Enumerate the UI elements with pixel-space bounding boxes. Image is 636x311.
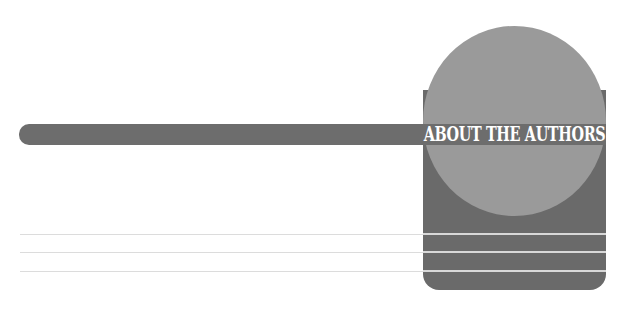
writing-rule-1 — [20, 234, 423, 235]
box-stripe-3 — [423, 270, 606, 272]
section-title: ABOUT THE AUTHORS — [449, 120, 581, 148]
writing-rule-2 — [20, 252, 423, 253]
box-stripe-1 — [423, 233, 606, 235]
box-stripe-2 — [423, 251, 606, 253]
writing-rule-3 — [20, 271, 423, 272]
header-bar — [19, 124, 439, 145]
